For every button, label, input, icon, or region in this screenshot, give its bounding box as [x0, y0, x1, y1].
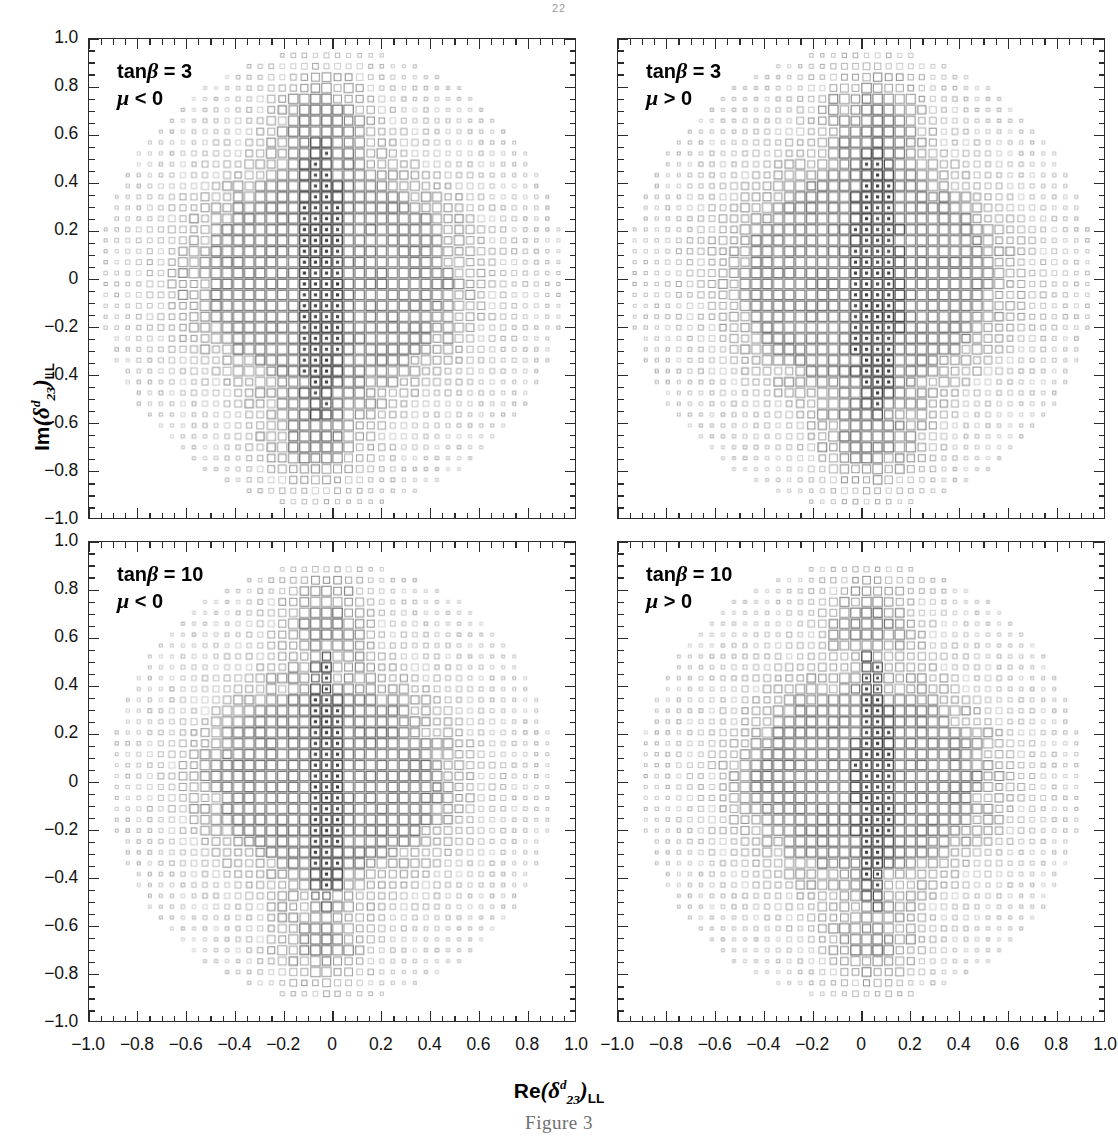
x-tick-top [491, 542, 492, 548]
x-tick-bottom [540, 1016, 541, 1022]
y-tick-right [1099, 770, 1105, 771]
y-tick-right [1094, 279, 1104, 280]
x-tick-top [1069, 542, 1070, 548]
x-tick-bottom [898, 1016, 899, 1022]
y-tick-left [89, 351, 95, 352]
y-tick-left [618, 291, 624, 292]
x-tick-bottom [1069, 1016, 1070, 1022]
x-tick-bottom [910, 508, 911, 518]
y-tick-label: 0.4 [14, 674, 78, 695]
x-tick-bottom [101, 513, 102, 519]
y-tick-left [618, 998, 624, 999]
y-tick-right [565, 734, 575, 735]
y-tick-left [89, 423, 99, 424]
y-tick-right [570, 315, 576, 316]
y-tick-right [1094, 135, 1104, 136]
x-tick-top [235, 542, 236, 552]
y-tick-left [618, 471, 628, 472]
x-tick-top [764, 39, 765, 49]
y-tick-label: 0.2 [14, 722, 78, 743]
x-tick-bottom [654, 1016, 655, 1022]
x-tick-bottom [259, 513, 260, 519]
x-tick-top [308, 39, 309, 45]
x-tick-bottom [983, 513, 984, 519]
x-tick-bottom [1093, 513, 1094, 519]
y-tick-left [618, 734, 628, 735]
y-tick-left [618, 854, 624, 855]
x-tick-top [849, 542, 850, 548]
x-tick-bottom [678, 1016, 679, 1022]
y-tick-right [1094, 231, 1104, 232]
x-tick-top [186, 542, 187, 552]
y-tick-right [1099, 207, 1105, 208]
y-tick-label: 0.8 [14, 75, 78, 96]
y-tick-right [1099, 195, 1105, 196]
y-tick-left [89, 135, 99, 136]
x-tick-top [935, 542, 936, 548]
x-tick-top [271, 542, 272, 548]
annotation-mu: μ > 0 [646, 587, 732, 614]
y-tick-left [89, 590, 99, 591]
y-tick-right [570, 50, 576, 51]
y-tick-left [89, 950, 95, 951]
x-tick-bottom [454, 513, 455, 519]
x-tick-bottom [849, 513, 850, 519]
y-tick-right [1099, 291, 1105, 292]
x-tick-bottom [630, 513, 631, 519]
x-tick-top [617, 39, 618, 49]
x-tick-bottom [149, 513, 150, 519]
y-axis-title: Im(δd23)LL [29, 307, 55, 507]
x-tick-top [996, 39, 997, 45]
x-tick-top [910, 39, 911, 49]
y-tick-right [1099, 74, 1105, 75]
y-tick-right [570, 267, 576, 268]
x-tick-top [800, 39, 801, 45]
y-tick-right [570, 387, 576, 388]
x-tick-bottom [654, 513, 655, 519]
y-tick-right [570, 74, 576, 75]
y-tick-right [1099, 602, 1105, 603]
x-tick-top [454, 542, 455, 548]
x-tick-top [210, 39, 211, 45]
x-tick-bottom [1020, 513, 1021, 519]
y-tick-left [618, 183, 628, 184]
y-tick-left [89, 842, 95, 843]
x-tick-top [642, 542, 643, 548]
x-tick-top [752, 542, 753, 548]
x-tick-top [678, 542, 679, 548]
y-tick-right [1099, 267, 1105, 268]
x-tick-top [113, 39, 114, 45]
y-tick-right [570, 111, 576, 112]
x-tick-top [345, 39, 346, 45]
y-tick-left [618, 962, 624, 963]
x-tick-top [540, 542, 541, 548]
y-tick-right [570, 123, 576, 124]
y-tick-right [570, 722, 576, 723]
y-tick-left [618, 207, 624, 208]
y-tick-right [1099, 387, 1105, 388]
x-tick-top [617, 542, 618, 552]
y-tick-left [618, 722, 624, 723]
x-tick-bottom [210, 1016, 211, 1022]
y-tick-right [565, 782, 575, 783]
x-tick-top [442, 39, 443, 45]
y-tick-left [89, 686, 99, 687]
x-tick-bottom [345, 513, 346, 519]
y-tick-left [618, 770, 624, 771]
y-tick-left [618, 902, 624, 903]
x-tick-bottom [898, 513, 899, 519]
x-tick-top [430, 39, 431, 49]
y-tick-left [618, 38, 628, 39]
y-tick-left [618, 553, 624, 554]
x-tick-bottom [996, 1016, 997, 1022]
x-tick-bottom [971, 513, 972, 519]
x-tick-top [678, 39, 679, 45]
y-tick-left [89, 782, 99, 783]
x-tick-top [837, 542, 838, 548]
x-tick-bottom [271, 513, 272, 519]
y-tick-left [89, 890, 95, 891]
x-tick-top [332, 39, 333, 49]
y-tick-right [1099, 794, 1105, 795]
y-tick-right [1094, 734, 1104, 735]
x-tick-bottom [727, 513, 728, 519]
